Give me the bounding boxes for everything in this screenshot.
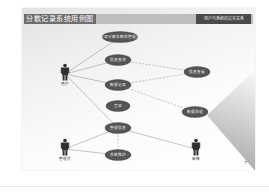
actor-a1: 用户 [61,64,69,86]
use-case-label: 登录 [114,103,122,108]
use-case-label: 记录分散系统的管理员 [100,34,140,39]
use-case-u4: 登录 [106,101,130,112]
association-line [118,128,196,149]
actor-head-icon [63,64,67,68]
page-number: 7 [244,160,247,165]
divider [0,186,269,187]
actor-label: 管理员 [59,156,71,161]
use-case-label: 管理信息 [110,125,126,130]
dependency-line [118,85,195,112]
use-case-label: 信息查看 [189,69,205,74]
use-case-u2: 信息查询 [105,55,131,66]
use-case-label: 数据处理 [187,109,203,114]
slide: 分散记录系统用例图 用户与系统的交互关系 记录分散系统的管理员信息查询数据记录登… [22,8,255,170]
actor-label: 审核 [192,156,200,161]
use-case-label: 数据记录 [110,82,126,87]
actor-head-icon [63,139,67,143]
use-case-u1: 记录分散系统的管理员 [100,32,140,43]
use-case-u7: 信息查看 [184,67,210,78]
use-case-u5: 管理信息 [105,123,131,134]
actor-body-icon [62,68,68,76]
actor-label: 用户 [61,81,69,86]
use-case-label: 系统维护 [110,152,126,157]
use-case-u8: 数据处理 [182,107,208,118]
actor-head-icon [194,139,198,143]
actor-body-icon [193,143,199,151]
use-case-u3: 数据记录 [105,80,131,91]
use-case-diagram: 记录分散系统的管理员信息查询数据记录登录管理信息系统维护信息查看数据处理用户管理… [22,8,255,170]
actor-body-icon [62,143,68,151]
actor-a3: 审核 [192,139,200,161]
use-case-u6: 系统维护 [105,150,131,161]
actor-a2: 管理员 [59,139,71,161]
use-case-label: 信息查询 [110,57,126,62]
